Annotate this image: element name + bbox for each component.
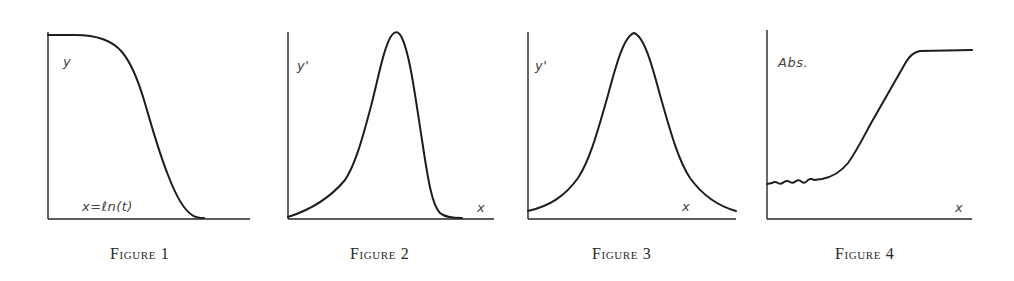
- figure-caption: Figure 4: [835, 245, 894, 263]
- figure-4: Abs. x Figure 4: [0, 0, 1014, 281]
- y-axis-label: Abs.: [778, 55, 808, 70]
- curve-absorbance: [767, 50, 972, 184]
- x-axis-label: x: [955, 200, 963, 215]
- figure-4-plot: [0, 0, 1014, 240]
